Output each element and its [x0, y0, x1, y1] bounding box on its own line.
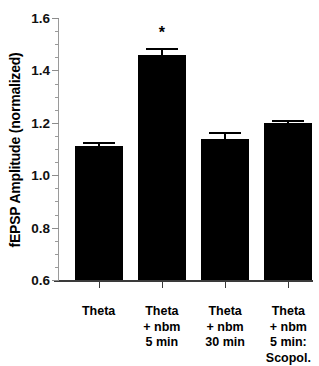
plot-area: 0.60.81.01.21.41.6 * ThetaTheta+ nbm5 mi…	[58, 18, 311, 280]
x-category-label-line: Theta	[82, 304, 115, 320]
x-category-label: Theta	[82, 304, 115, 320]
x-category-label-line: Theta	[205, 304, 245, 320]
y-tick-major	[52, 70, 59, 71]
bar	[264, 123, 312, 280]
x-category-label: Theta+ nbm30 min	[205, 304, 245, 351]
x-tick	[288, 282, 289, 288]
y-axis-title: fEPSP Amplitude (normalized)	[4, 10, 26, 290]
x-category-label-line: 5 min	[143, 335, 180, 351]
y-tick-minor	[55, 201, 59, 202]
x-category-label: Theta+ nbm5 min	[143, 304, 180, 351]
y-tick-minor	[55, 188, 59, 189]
x-axis-line	[54, 280, 313, 282]
y-tick-minor	[55, 162, 59, 163]
y-tick-major	[52, 228, 59, 229]
error-bar-cap	[83, 142, 115, 144]
y-tick-minor	[55, 136, 59, 137]
y-tick-label: 1.2	[31, 115, 50, 130]
x-category-label-line: + nbm	[205, 320, 245, 336]
error-bar-cap	[146, 48, 178, 50]
y-tick-minor	[55, 254, 59, 255]
y-tick-major	[52, 123, 59, 124]
y-tick-label: 0.6	[31, 273, 50, 288]
y-tick-major	[52, 280, 59, 281]
y-tick-minor	[55, 149, 59, 150]
y-tick-minor	[55, 215, 59, 216]
x-tick	[225, 282, 226, 288]
x-category-label-line: + nbm	[266, 320, 311, 336]
error-bar-cap	[272, 120, 304, 122]
y-tick-label: 0.8	[31, 220, 50, 235]
y-tick-label: 1.0	[31, 168, 50, 183]
x-tick	[162, 282, 163, 288]
y-tick-minor	[55, 57, 59, 58]
y-tick-minor	[55, 44, 59, 45]
y-tick-minor	[55, 110, 59, 111]
bar	[201, 139, 249, 280]
y-tick-major	[52, 175, 59, 176]
x-category-label: Theta+ nbm5 min:Scopol.	[266, 304, 311, 366]
error-bar-cap	[209, 132, 241, 134]
y-tick-minor	[55, 84, 59, 85]
bar	[75, 146, 123, 280]
significance-asterisk: *	[159, 28, 165, 38]
y-tick-minor	[55, 31, 59, 32]
y-tick-major	[52, 18, 59, 19]
bar	[138, 55, 186, 280]
x-tick	[99, 282, 100, 288]
x-category-label-line: + nbm	[143, 320, 180, 336]
x-category-label-line: Theta	[143, 304, 180, 320]
y-tick-minor	[55, 241, 59, 242]
y-tick-minor	[55, 267, 59, 268]
y-tick-minor	[55, 97, 59, 98]
x-category-label-line: 5 min:	[266, 335, 311, 351]
x-category-label-line: Theta	[266, 304, 311, 320]
x-category-label-line: Scopol.	[266, 351, 311, 366]
y-tick-label: 1.4	[31, 63, 50, 78]
y-tick-label: 1.6	[31, 11, 50, 26]
x-category-label-line: 30 min	[205, 335, 245, 351]
